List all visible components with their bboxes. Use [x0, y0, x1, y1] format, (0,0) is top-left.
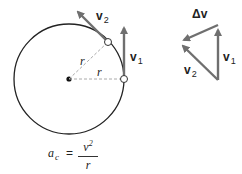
formula-fraction: v2 r [78, 140, 98, 173]
position-point-2 [105, 39, 112, 46]
triangle-delta-v-arrow [184, 25, 218, 40]
formula-denominator: r [78, 157, 98, 173]
triangle-v2-label: v2 [184, 64, 197, 76]
triangle-v1-label: v1 [223, 51, 236, 63]
v1-label: v1 [130, 51, 143, 63]
diagram-canvas [0, 0, 242, 174]
delta-v-label: Δv [192, 8, 207, 20]
formula-numerator: v2 [78, 140, 98, 157]
formula-lhs: ac [48, 146, 59, 161]
radius-label-diagonal: r [80, 55, 85, 67]
formula-equals: = [66, 146, 73, 160]
radius-line-diagonal [69, 42, 108, 79]
v2-label: v2 [96, 10, 109, 22]
radius-label-horizontal: r [97, 66, 102, 78]
position-point-1 [121, 76, 128, 83]
